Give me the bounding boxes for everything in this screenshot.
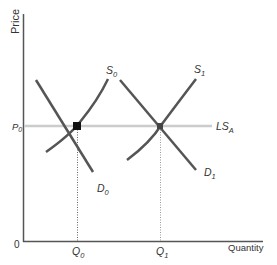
q1-label: Q1 [156, 245, 168, 260]
d0-label: D0 [97, 182, 110, 197]
lsa-label: LSA [216, 120, 234, 135]
supply-curve-s1 [127, 79, 196, 160]
supply-curve-s0 [46, 79, 108, 152]
x-axis-label: Quantity [228, 242, 264, 253]
equilibrium-point-initial [73, 122, 81, 130]
s1-label: S1 [194, 63, 205, 78]
q0-label: Q0 [72, 245, 85, 260]
supply-demand-diagram: Price P0 0 Q0 Q1 Quantity S0 S1 D0 D1 LS… [0, 0, 277, 265]
price-p0-label: P0 [12, 121, 22, 133]
y-axis-label: Price [9, 9, 21, 34]
s0-label: S0 [106, 64, 118, 79]
origin-label: 0 [14, 239, 20, 250]
d1-label: D1 [204, 166, 216, 181]
equilibrium-point-new [157, 123, 163, 129]
